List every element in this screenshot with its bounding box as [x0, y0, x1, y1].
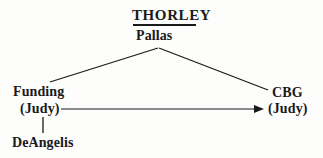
node-funding-sub: (Judy) — [20, 102, 60, 116]
node-funding-name: Funding — [13, 85, 64, 99]
edge-pallas-to-funding — [50, 48, 158, 82]
node-cbg-name: CBG — [272, 86, 303, 100]
diagram-title: THORLEY — [132, 8, 211, 23]
node-cbg-sub: (Judy) — [268, 102, 308, 116]
edge-pallas-to-cbg — [159, 48, 268, 90]
relationship-diagram: THORLEY Pallas Funding (Judy) DeAngelis … — [0, 0, 323, 158]
node-deangelis-name: DeAngelis — [12, 136, 74, 150]
node-root-pallas: Pallas — [136, 29, 172, 43]
title-underline — [133, 24, 196, 26]
arrowhead-icon — [254, 105, 264, 113]
